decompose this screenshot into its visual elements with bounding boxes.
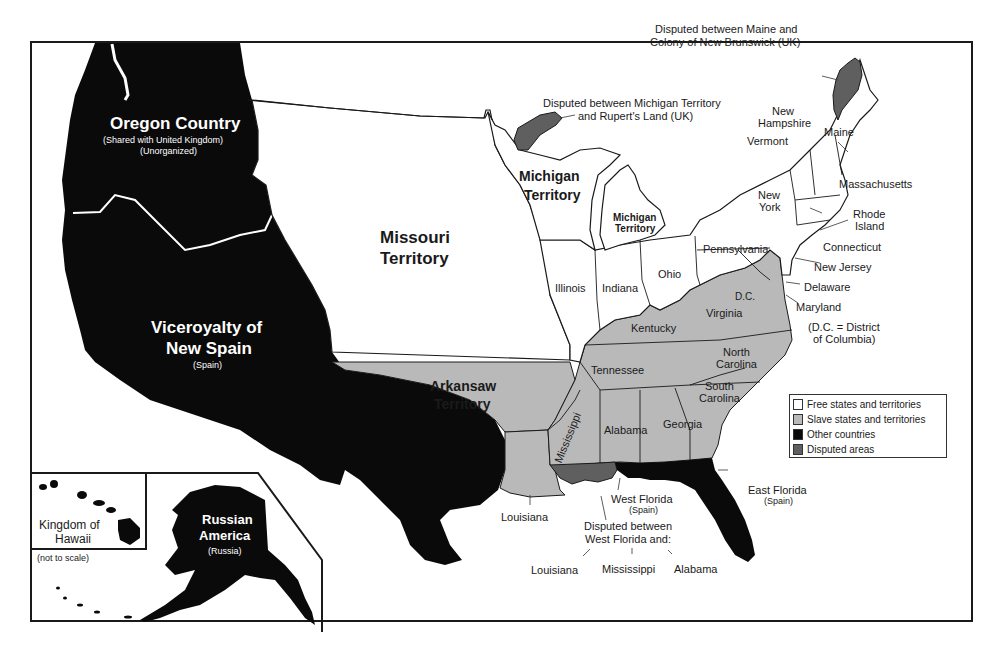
- label-west-florida-note: (Spain): [629, 505, 658, 516]
- annotation-michigan-dispute-1: Disputed between Michigan Territory: [543, 97, 721, 110]
- label-south-carolina-2: Carolina: [699, 392, 740, 405]
- legend-label-disputed: Disputed areas: [807, 444, 874, 455]
- aleutian-islands: [56, 587, 132, 619]
- label-virginia: Virginia: [706, 307, 743, 320]
- label-new-spain-note: (Spain): [193, 360, 222, 371]
- annotation-wf-dispute-2: West Florida and:: [585, 533, 671, 546]
- label-pennsylvania: Pennsylvania: [703, 243, 768, 256]
- annotation-wf-louisiana: Louisiana: [531, 564, 578, 577]
- label-russian-america-line2: America: [199, 528, 250, 543]
- label-tennessee: Tennessee: [591, 364, 644, 377]
- label-hawaii-line2: Hawaii: [55, 532, 91, 546]
- label-oregon-note2: (Unorganized): [140, 146, 197, 157]
- label-maryland: Maryland: [796, 301, 841, 314]
- legend-label-free: Free states and territories: [807, 399, 921, 410]
- label-missouri-line1: Missouri: [380, 228, 450, 248]
- label-illinois: Illinois: [555, 282, 586, 295]
- label-dc: D.C.: [735, 290, 755, 303]
- label-delaware: Delaware: [804, 281, 850, 294]
- annotation-wf-alabama: Alabama: [674, 563, 717, 576]
- label-hawaii-line1: Kingdom of: [39, 518, 100, 532]
- label-dc-note-2: of Columbia): [813, 333, 875, 346]
- label-kentucky: Kentucky: [631, 322, 676, 335]
- legend-label-slave: Slave states and territories: [807, 414, 925, 425]
- legend-item-other: Other countries: [793, 427, 943, 442]
- label-vermont: Vermont: [747, 135, 788, 148]
- label-indiana: Indiana: [602, 282, 638, 295]
- label-east-florida-note: (Spain): [764, 496, 793, 507]
- label-oregon-country: Oregon Country: [110, 114, 240, 134]
- label-maine: Maine: [824, 126, 854, 139]
- region-michigan-territory-east: [600, 165, 665, 250]
- label-missouri-line2: Territory: [380, 249, 449, 269]
- swatch-slave: [793, 414, 803, 425]
- disputed-michigan-ruperts: [514, 112, 562, 150]
- label-connecticut: Connecticut: [823, 241, 881, 254]
- label-new-york-2: York: [759, 201, 781, 214]
- swatch-other: [793, 429, 803, 440]
- disputed-west-florida-strip: [550, 462, 617, 484]
- label-michigan-east-line1: Michigan: [613, 212, 656, 223]
- label-new-hampshire-2: Hampshire: [758, 117, 811, 130]
- annotation-wf-mississippi: Mississippi: [602, 563, 655, 576]
- label-alabama: Alabama: [604, 424, 647, 437]
- label-georgia: Georgia: [663, 418, 702, 431]
- label-michigan-west-line2: Territory: [524, 187, 581, 203]
- annotation-wf-dispute-1: Disputed between: [584, 520, 672, 533]
- label-new-spain-line2: New Spain: [166, 339, 252, 359]
- swatch-free: [793, 399, 803, 410]
- label-hawaii-note: (not to scale): [37, 553, 89, 564]
- label-russian-america-note: (Russia): [208, 546, 242, 557]
- label-russian-america-line1: Russian: [202, 512, 253, 527]
- label-ohio: Ohio: [658, 268, 681, 281]
- annotation-michigan-dispute-2: and Rupert's Land (UK): [578, 110, 693, 123]
- legend-item-slave: Slave states and territories: [793, 412, 943, 427]
- label-new-spain-line1: Viceroyalty of: [151, 318, 262, 338]
- label-louisiana: Louisiana: [501, 511, 548, 524]
- label-north-carolina-2: Carolina: [716, 358, 757, 371]
- legend-label-other: Other countries: [807, 429, 875, 440]
- label-new-jersey: New Jersey: [814, 261, 871, 274]
- map-legend: Free states and territories Slave states…: [789, 394, 947, 458]
- legend-item-disputed: Disputed areas: [793, 442, 943, 457]
- label-arkansaw-line2: Territory: [434, 396, 491, 412]
- annotation-maine-dispute-2: Colony of New Brunswick (UK): [650, 36, 800, 49]
- swatch-disputed: [793, 444, 803, 455]
- label-oregon-note1: (Shared with United Kingdom): [103, 135, 223, 146]
- annotation-maine-dispute-1: Disputed between Maine and: [655, 23, 797, 36]
- label-rhode-island-2: Island: [855, 220, 884, 233]
- label-michigan-west-line1: Michigan: [519, 168, 580, 184]
- label-arkansaw-line1: Arkansaw: [430, 378, 496, 394]
- label-michigan-east-line2: Territory: [615, 223, 655, 234]
- legend-item-free: Free states and territories: [793, 397, 943, 412]
- label-massachusetts: Massachusetts: [839, 178, 912, 191]
